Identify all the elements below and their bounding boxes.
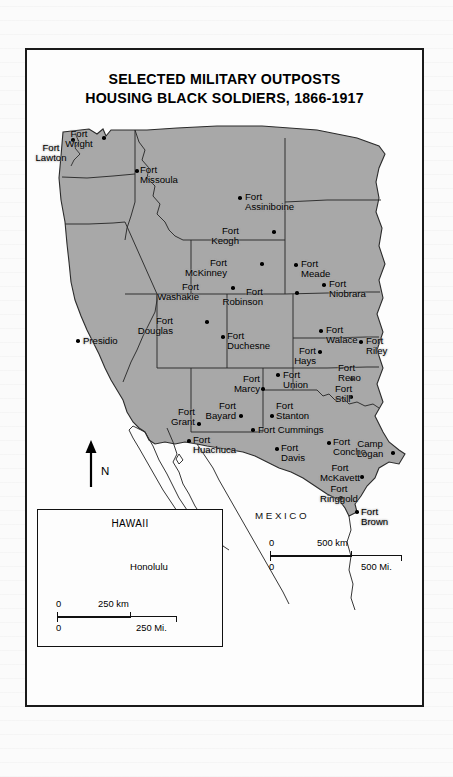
place-label: FortNiobrara (329, 279, 366, 300)
place-label: FortWashakie (157, 282, 199, 303)
mexico-country-label: MEXICO (255, 510, 309, 521)
place-label: FortBrown (361, 507, 388, 528)
place-label: FortDavis (281, 443, 305, 464)
place-label-line: Huachuca (193, 445, 236, 455)
place-label: Fort Cummings (258, 425, 324, 435)
place-label-line: Ringgold (313, 494, 365, 504)
map-marker-dot (327, 441, 331, 445)
place-label-line: Washakie (157, 292, 199, 302)
place-label: FortHuachuca (193, 435, 236, 456)
place-label: CampLogan (344, 439, 396, 460)
place-label-line: Logan (344, 449, 396, 459)
map-marker-dot (272, 230, 276, 234)
scalebar-main-mi-bar (270, 555, 402, 561)
map-marker-dot (238, 196, 242, 200)
place-label-line: Stanton (276, 411, 309, 421)
place-label: FortRinggold (313, 484, 365, 505)
place-label-line: Assiniboine (245, 202, 294, 212)
place-label-line: Bayard (206, 411, 236, 421)
map-marker-dot (221, 335, 225, 339)
map-marker-dot (294, 263, 298, 267)
place-label-line: Meade (301, 269, 330, 279)
scalebar-hawaii-mi-zero: 0 (56, 622, 61, 633)
map-marker-dot (76, 339, 80, 343)
map-marker-dot (319, 329, 323, 333)
place-label: FortDouglas (138, 316, 173, 337)
map-marker-dot (205, 320, 209, 324)
place-label-line: Walace (326, 335, 358, 345)
place-label-line: Fort Cummings (258, 425, 324, 435)
place-label: FortMarcy (234, 374, 260, 395)
map-marker-dot (135, 169, 139, 173)
north-arrow: N (82, 435, 116, 487)
map-marker-dot (270, 414, 274, 418)
scalebar-hawaii-mi-value: 250 Mi. (136, 622, 167, 633)
place-label-line: Hays (294, 356, 316, 366)
place-label-line: Still (335, 394, 352, 404)
scalebar-hawaii-km-value: 250 km (98, 598, 129, 609)
hawaii-inset-title: HAWAII (38, 518, 222, 529)
place-label-line: Presidio (83, 336, 118, 346)
scalebar-hawaii-mi-bar (57, 616, 177, 622)
place-label: FortMcKavett (314, 463, 366, 484)
scalebar-main-mi-value: 500 Mi. (361, 561, 392, 572)
map-marker-dot (355, 510, 359, 514)
place-label-line: Robinson (222, 297, 263, 307)
place-label: FortStill (335, 384, 352, 405)
place-label: FortHays (294, 346, 316, 367)
map-marker-dot (276, 373, 280, 377)
place-label: FortKeogh (211, 226, 239, 247)
place-label-line: Marcy (234, 384, 260, 394)
map-marker-dot (239, 414, 243, 418)
place-label-line: Missoula (140, 175, 178, 185)
map-marker-dot (322, 283, 326, 287)
place-label-line: Duchesne (227, 341, 270, 351)
place-label: FortGrant (171, 407, 195, 428)
place-label: FortStanton (276, 401, 309, 422)
place-label: FortWright (53, 129, 105, 150)
map-marker-dot (251, 428, 255, 432)
map-marker-dot (318, 350, 322, 354)
map-figure-frame: SELECTED MILITARY OUTPOSTS HOUSING BLACK… (25, 48, 424, 707)
hawaii-inset-map: HAWAII Honolulu 0 250 km 0 250 Mi. (37, 509, 223, 647)
map-marker-dot (260, 262, 264, 266)
place-label: FortAssiniboine (245, 192, 294, 213)
baja-small-island-a (176, 454, 183, 464)
place-label-line: McKinney (185, 268, 227, 278)
scalebar-main-mi-zero: 0 (269, 561, 274, 572)
scalebar-main-km-value: 500 km (317, 537, 348, 548)
place-label-line: Union (283, 380, 308, 390)
place-label-line: Lawton (25, 153, 77, 163)
place-label: FortWalace (326, 325, 358, 346)
place-label: FortMcKinney (185, 258, 227, 279)
honolulu-label: Honolulu (130, 561, 168, 572)
place-label: FortBayard (206, 401, 236, 422)
map-marker-dot (197, 422, 201, 426)
mexico-east-coast (347, 516, 355, 610)
place-label-line: Wright (53, 139, 105, 149)
place-label: FortDuchesne (227, 331, 270, 352)
north-arrow-label: N (101, 465, 109, 477)
place-label-line: Grant (171, 417, 195, 427)
place-label: FortRiley (366, 336, 387, 357)
place-label-line: Riley (366, 346, 387, 356)
map-marker-dot (359, 340, 363, 344)
place-label: FortMeade (301, 259, 330, 280)
place-label: FortRobinson (222, 287, 263, 308)
place-label-line: Douglas (138, 326, 173, 336)
place-label-line: Davis (281, 453, 305, 463)
map-marker-dot (187, 439, 191, 443)
map-marker-dot (275, 447, 279, 451)
scalebar-hawaii-km-zero: 0 (56, 598, 61, 609)
place-label-line: Niobrara (329, 289, 366, 299)
place-label-line: Keogh (211, 236, 239, 246)
map-marker-dot (295, 291, 299, 295)
map-marker-dot (261, 387, 265, 391)
place-label-line: Brown (361, 517, 388, 527)
place-label: FortMissoula (140, 165, 178, 186)
place-label: Presidio (83, 336, 118, 346)
place-label: FortUnion (283, 370, 308, 391)
scalebar-main-km-zero: 0 (269, 537, 274, 548)
place-label: FortReno (338, 363, 361, 384)
